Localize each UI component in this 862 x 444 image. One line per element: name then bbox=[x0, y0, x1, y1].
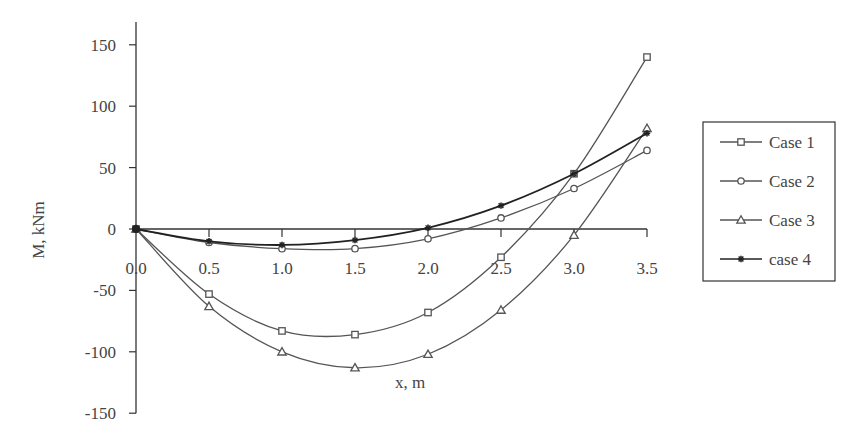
square-marker-icon bbox=[352, 331, 358, 337]
y-tick-label: 100 bbox=[91, 97, 117, 116]
circle-marker-icon bbox=[738, 178, 744, 184]
x-tick-label: 1.5 bbox=[344, 259, 365, 278]
square-marker-icon bbox=[738, 139, 744, 145]
square-marker-icon bbox=[279, 328, 285, 334]
square-marker-icon bbox=[425, 309, 431, 315]
x-axis-title: x, m bbox=[395, 373, 425, 392]
moment-chart: 150100500-50-100-150 0.00.51.01.52.02.53… bbox=[0, 0, 862, 444]
legend-label: Case 3 bbox=[769, 211, 815, 230]
star-marker-icon bbox=[352, 237, 358, 243]
y-axis: 150100500-50-100-150 bbox=[85, 22, 136, 423]
x-tick-label: 2.5 bbox=[490, 259, 511, 278]
star-marker-icon bbox=[206, 238, 212, 244]
origin-dot bbox=[132, 225, 140, 233]
x-tick-label: 1.0 bbox=[271, 259, 292, 278]
y-tick-label: -50 bbox=[93, 281, 116, 300]
x-tick-label: 3.0 bbox=[563, 259, 584, 278]
triangle-marker-icon bbox=[278, 348, 286, 355]
star-marker-icon bbox=[644, 130, 650, 136]
circle-marker-icon bbox=[498, 215, 504, 221]
series-case-1 bbox=[133, 54, 650, 338]
y-tick-label: 50 bbox=[99, 159, 116, 178]
series-case-3 bbox=[132, 124, 651, 371]
circle-marker-icon bbox=[571, 185, 577, 191]
x-tick-label: 0.5 bbox=[198, 259, 219, 278]
legend-label: Case 2 bbox=[769, 172, 815, 191]
circle-marker-icon bbox=[644, 147, 650, 153]
x-tick-label: 3.5 bbox=[636, 259, 657, 278]
star-marker-icon bbox=[425, 225, 431, 231]
y-tick-label: 150 bbox=[91, 36, 117, 55]
series-layer bbox=[132, 54, 651, 371]
legend: Case 1Case 2Case 3case 4 bbox=[703, 122, 835, 281]
y-tick-label: -100 bbox=[85, 343, 116, 362]
square-marker-icon bbox=[498, 254, 504, 260]
x-tick-label: 2.0 bbox=[417, 259, 438, 278]
y-axis-title: M, kNm bbox=[29, 201, 48, 259]
square-marker-icon bbox=[206, 291, 212, 297]
x-tick-label: 0.0 bbox=[125, 259, 146, 278]
square-marker-icon bbox=[644, 54, 650, 60]
legend-label: Case 1 bbox=[769, 133, 815, 152]
legend-label: case 4 bbox=[769, 250, 812, 269]
star-marker-icon bbox=[571, 171, 577, 177]
circle-marker-icon bbox=[352, 245, 358, 251]
y-tick-label: 0 bbox=[108, 220, 117, 239]
star-marker-icon bbox=[279, 242, 285, 248]
circle-marker-icon bbox=[425, 236, 431, 242]
star-marker-icon bbox=[738, 256, 744, 262]
star-marker-icon bbox=[498, 202, 504, 208]
y-tick-label: -150 bbox=[85, 404, 116, 423]
